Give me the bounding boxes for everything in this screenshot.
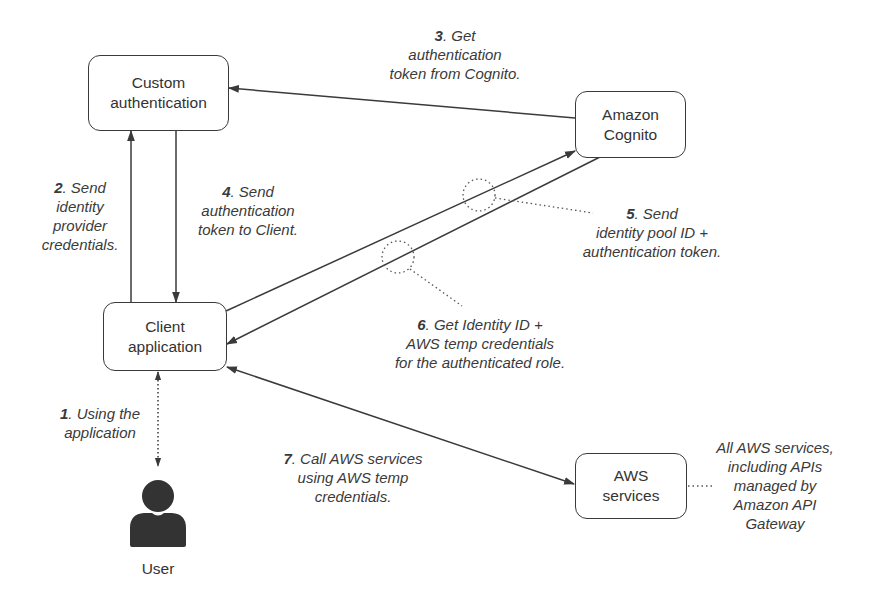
step-text: using AWS temp xyxy=(263,468,443,487)
step-text: authentication token. xyxy=(552,242,752,261)
amazon-cognito-node[interactable]: Amazon Cognito xyxy=(575,91,686,158)
node-text: services xyxy=(603,486,660,506)
step-3-label: 3. Get authentication token from Cognito… xyxy=(355,26,555,83)
custom-authentication-node[interactable]: Custom authentication xyxy=(88,55,229,131)
step-text: . Get xyxy=(443,27,476,44)
step-text: token from Cognito. xyxy=(355,64,555,83)
step-text: provider xyxy=(30,216,130,235)
step-6-label: 6. Get Identity ID + AWS temp credential… xyxy=(365,315,595,372)
callout-circle-step-6 xyxy=(382,241,414,273)
step-2-label: 2. Send identity provider credentials. xyxy=(30,178,130,254)
step-text: credentials. xyxy=(263,487,443,506)
step-number: 3 xyxy=(435,27,443,44)
callout-leader-step-6 xyxy=(410,269,462,306)
step-text: . Call AWS services xyxy=(292,450,423,467)
step-text: . Using the xyxy=(68,405,140,422)
note-text: Amazon API xyxy=(700,495,850,514)
step-text: token to Client. xyxy=(183,220,313,239)
node-text: Client xyxy=(145,317,185,337)
step-number: 7 xyxy=(283,450,291,467)
user-label: User xyxy=(128,560,188,578)
note-text: managed by xyxy=(700,476,850,495)
step-text: . Send xyxy=(634,205,677,222)
step-text: . Get Identity ID + xyxy=(426,316,543,333)
node-text: Amazon xyxy=(602,105,659,125)
aws-services-note: All AWS services, including APIs managed… xyxy=(700,438,850,533)
arrow-step-3 xyxy=(229,88,575,118)
step-7-label: 7. Call AWS services using AWS temp cred… xyxy=(263,449,443,506)
step-text: identity xyxy=(30,197,130,216)
user-icon xyxy=(130,480,186,547)
note-text: including APIs xyxy=(700,457,850,476)
step-text: application xyxy=(48,423,152,442)
step-text: AWS temp credentials xyxy=(365,334,595,353)
node-text: application xyxy=(128,337,202,357)
aws-services-node[interactable]: AWS services xyxy=(575,453,687,519)
step-text: for the authenticated role. xyxy=(365,353,595,372)
step-5-label: 5. Send identity pool ID + authenticatio… xyxy=(552,204,752,261)
step-text: identity pool ID + xyxy=(552,223,752,242)
step-text: . Send xyxy=(62,179,105,196)
step-4-label: 4. Send authentication token to Client. xyxy=(183,182,313,239)
client-application-node[interactable]: Client application xyxy=(103,302,227,371)
note-text: Gateway xyxy=(700,514,850,533)
step-number: 6 xyxy=(417,316,425,333)
step-text: authentication xyxy=(183,201,313,220)
note-text: All AWS services, xyxy=(700,438,850,457)
step-1-label: 1. Using the application xyxy=(48,404,152,442)
step-text: credentials. xyxy=(30,235,130,254)
node-text: Custom xyxy=(132,73,185,93)
step-text: authentication xyxy=(355,45,555,64)
node-text: AWS xyxy=(614,466,649,486)
step-text: . Send xyxy=(230,183,273,200)
node-text: Cognito xyxy=(604,125,657,145)
node-text: authentication xyxy=(110,93,207,113)
